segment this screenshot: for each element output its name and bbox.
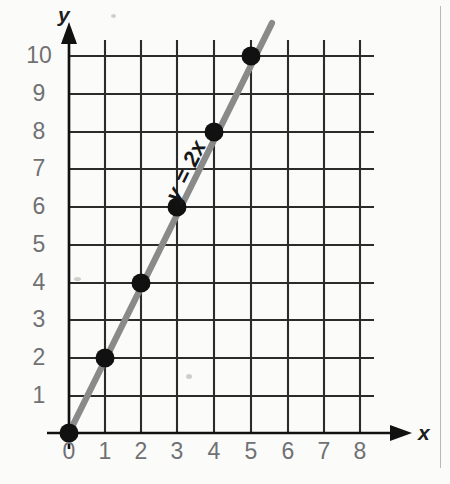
y-tick-label-4: 4 xyxy=(22,271,56,294)
x-tick-label-6: 6 xyxy=(271,440,305,463)
graph-figure: 10 9 8 7 6 5 4 3 2 1 0 1 2 3 4 5 6 7 8 y… xyxy=(0,0,450,484)
page-border-rule xyxy=(440,6,441,468)
data-point xyxy=(132,274,151,293)
x-tick-label-8: 8 xyxy=(343,440,377,463)
y-tick-label-1: 1 xyxy=(22,384,56,407)
y-tick-label-6: 6 xyxy=(22,195,56,218)
y-axis xyxy=(61,22,77,449)
scan-speck xyxy=(111,14,116,18)
x-tick-label-7: 7 xyxy=(307,440,341,463)
y-tick-label-8: 8 xyxy=(22,120,56,143)
scan-speck xyxy=(186,374,192,379)
data-point xyxy=(242,47,261,66)
x-tick-label-3: 3 xyxy=(160,440,194,463)
y-tick-label-9: 9 xyxy=(22,82,56,105)
x-tick-label-4: 4 xyxy=(197,440,231,463)
scan-speck xyxy=(74,277,81,281)
x-tick-label-2: 2 xyxy=(124,440,158,463)
y-tick-label-2: 2 xyxy=(22,346,56,369)
data-point xyxy=(96,349,115,368)
y-tick-label-7: 7 xyxy=(22,157,56,180)
x-tick-label-0: 0 xyxy=(52,440,86,463)
x-tick-label-1: 1 xyxy=(88,440,122,463)
y-tick-label-3: 3 xyxy=(22,308,56,331)
coordinate-plane xyxy=(0,0,450,484)
grid-vertical-lines xyxy=(69,40,360,433)
data-point xyxy=(205,123,224,142)
y-tick-label-5: 5 xyxy=(22,233,56,256)
x-axis-label: x xyxy=(418,422,430,443)
y-axis-label: y xyxy=(58,4,70,25)
plot-line-y-equals-2x xyxy=(66,23,272,439)
y-tick-label-10: 10 xyxy=(22,44,56,67)
x-tick-label-5: 5 xyxy=(234,440,268,463)
